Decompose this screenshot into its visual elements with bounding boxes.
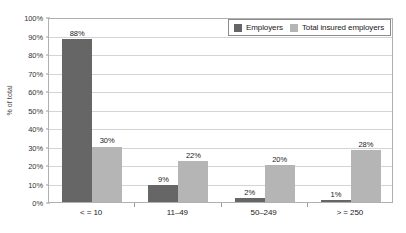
x-axis-tick-mark [134, 203, 135, 207]
y-axis-tick-label: 10% [28, 180, 43, 189]
bar [92, 147, 122, 203]
plot-area: 88%30%9%22%2%20%1%28% [48, 18, 393, 203]
y-axis-tick-label: 30% [28, 143, 43, 152]
legend-swatch-icon-total-insured-employers [290, 24, 298, 32]
bar-group: 9%22% [135, 19, 221, 202]
bar-value-label: 9% [158, 175, 169, 184]
x-axis-category-label: > = 250 [337, 208, 363, 217]
bar-value-label: 22% [186, 151, 201, 160]
y-axis-tick-label: 70% [28, 69, 43, 78]
y-axis-title: % of total [2, 0, 16, 200]
x-axis-tick-mark [307, 203, 308, 207]
legend-entry-employers: Employers [234, 23, 283, 32]
y-axis-tick-label: 0% [32, 199, 43, 208]
y-axis-title-text: % of total [6, 85, 13, 115]
x-axis-category-label: 11–49 [167, 208, 188, 217]
y-axis-tick-label: 90% [28, 32, 43, 41]
x-axis-category-label: < = 10 [80, 208, 102, 217]
bar [351, 150, 381, 202]
x-axis-category-label: 50–249 [251, 208, 277, 217]
y-axis-tick-label: 20% [28, 162, 43, 171]
bar [178, 161, 208, 202]
bar-value-label: 88% [70, 29, 85, 38]
bar-chart: % of total 0%10%20%30%40%50%60%70%80%90%… [0, 0, 406, 233]
bar [235, 198, 265, 202]
legend-swatch-icon-employers [234, 24, 242, 32]
bar-series-layer: 88%30%9%22%2%20%1%28% [49, 19, 392, 202]
chart-legend: Employers Total insured employers [228, 19, 391, 36]
y-axis-tick-labels: 0%10%20%30%40%50%60%70%80%90%100% [16, 18, 46, 203]
legend-label-employers: Employers [246, 23, 283, 32]
x-axis-category-labels: < = 1011–4950–249> = 250 [48, 208, 393, 224]
bar-value-label: 2% [244, 188, 255, 197]
legend-entry-total-insured-employers: Total insured employers [290, 23, 384, 32]
bar-value-label: 20% [272, 155, 287, 164]
bar-value-label: 28% [359, 140, 374, 149]
y-axis-tick-label: 50% [28, 106, 43, 115]
y-axis-tick-label: 80% [28, 51, 43, 60]
bar-value-label: 30% [100, 136, 115, 145]
bar [148, 185, 178, 202]
y-axis-tick-label: 100% [24, 14, 43, 23]
bar [321, 200, 351, 202]
bar-group: 2%20% [222, 19, 308, 202]
bar-value-label: 1% [331, 190, 342, 199]
bar-group: 88%30% [49, 19, 135, 202]
x-axis-tick-mark [221, 203, 222, 207]
bar-group: 1%28% [308, 19, 394, 202]
y-axis-tick-label: 40% [28, 125, 43, 134]
bar [62, 39, 92, 202]
bar [265, 165, 295, 202]
y-axis-tick-label: 60% [28, 88, 43, 97]
legend-label-total-insured-employers: Total insured employers [302, 23, 384, 32]
